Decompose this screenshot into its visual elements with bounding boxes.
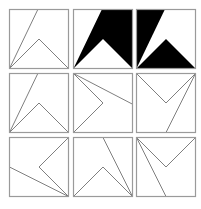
figure-svg <box>73 137 133 197</box>
diagonal-line <box>10 167 69 197</box>
chevron-shape <box>137 74 196 104</box>
chevron-shape <box>39 138 69 197</box>
figure-svg <box>73 73 133 133</box>
figure-svg <box>9 9 69 69</box>
figure-svg <box>73 9 133 69</box>
chevron-shape <box>10 39 69 69</box>
diagonal-line <box>74 74 133 105</box>
figure-svg <box>9 73 69 133</box>
cell-r2c1 <box>9 73 69 133</box>
diagonal-line <box>166 74 196 133</box>
figure-svg <box>136 137 196 197</box>
diagonal-line <box>137 138 167 197</box>
cell-r1c1 <box>9 9 69 69</box>
chevron-shape <box>137 138 196 168</box>
diagonal-line <box>103 138 133 197</box>
puzzle-grid <box>0 0 201 209</box>
diagonal-line <box>10 10 38 69</box>
chevron-shape <box>10 103 69 133</box>
chevron-shape <box>74 167 133 197</box>
chevron-shape <box>74 74 104 133</box>
figure-svg <box>9 137 69 197</box>
filled-region <box>74 10 133 69</box>
figure-svg <box>136 9 196 69</box>
diagonal-line <box>10 74 38 133</box>
cell-r3c1 <box>9 137 69 197</box>
cell-r1c3 <box>136 9 196 69</box>
figure-svg <box>136 73 196 133</box>
cell-r1c2 <box>73 9 133 69</box>
cell-r2c3 <box>136 73 196 133</box>
cell-r2c2 <box>73 73 133 133</box>
cell-r3c3 <box>136 137 196 197</box>
cell-r3c2 <box>73 137 133 197</box>
